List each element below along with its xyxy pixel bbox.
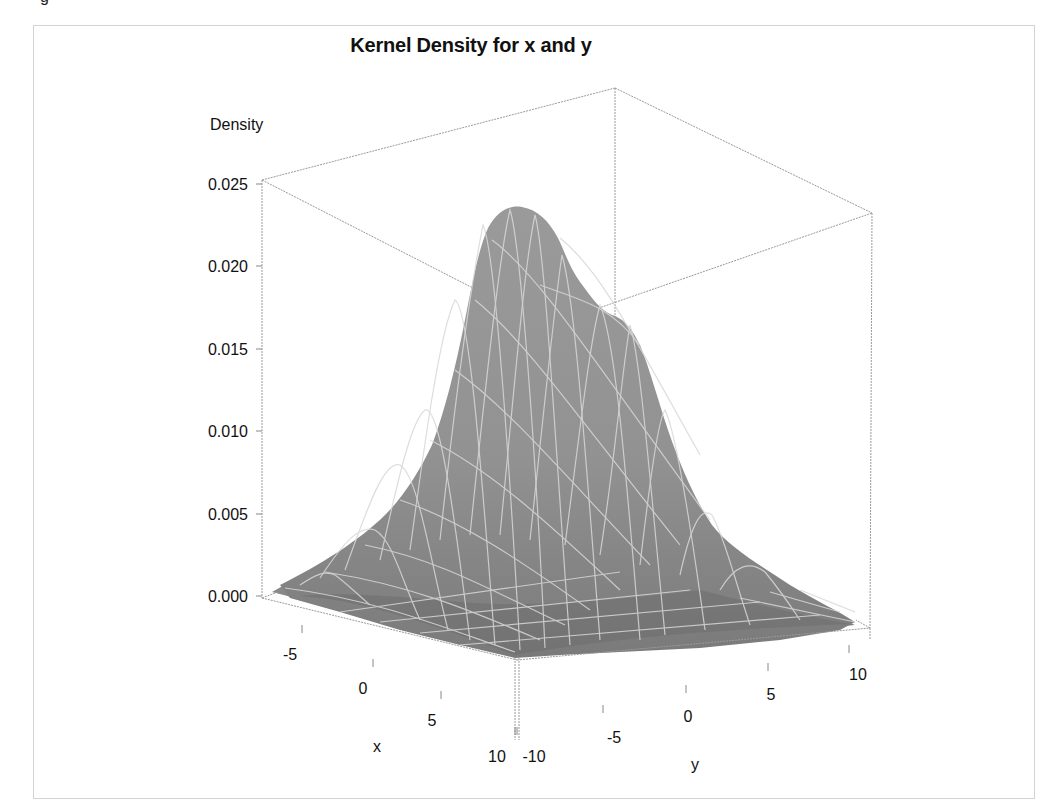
y-tick-label: -5 <box>607 729 621 746</box>
surface-plot: Density 0.025 0.020 0.015 0.010 0.005 0.… <box>0 0 1058 808</box>
y-tick-label: 5 <box>767 686 776 703</box>
x-tick-label: 10 <box>488 748 506 765</box>
x-tick-label: 5 <box>428 712 437 729</box>
y-tick-label: 0 <box>684 708 693 725</box>
z-tick-label: 0.015 <box>208 341 248 358</box>
y-tick-label: -10 <box>522 748 545 765</box>
x-tick-label: -5 <box>283 646 297 663</box>
y-axis-label: y <box>691 756 699 773</box>
z-tick-label: 0.020 <box>208 258 248 275</box>
y-tick-label: 10 <box>849 666 867 683</box>
x-tick-label: 0 <box>359 680 368 697</box>
z-axis <box>256 184 262 596</box>
density-surface <box>280 207 855 658</box>
z-axis-label: Density <box>210 116 263 133</box>
z-tick-label: 0.000 <box>208 588 248 605</box>
x-axis-label: x <box>373 738 381 755</box>
z-tick-label: 0.010 <box>208 423 248 440</box>
z-tick-label: 0.005 <box>208 506 248 523</box>
z-tick-label: 0.025 <box>208 176 248 193</box>
